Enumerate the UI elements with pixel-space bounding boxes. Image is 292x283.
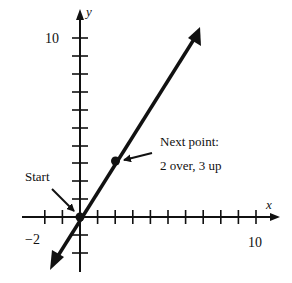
x-axis-label: x [265, 197, 272, 212]
next-point-pointer-arrow-icon [124, 153, 152, 160]
y-axis-arrow-icon [76, 9, 84, 20]
graph: y x 10 10 −2 Start Next point: 2 over, 3… [0, 0, 292, 283]
next-point [111, 157, 120, 166]
start-pointer-arrow-icon [52, 189, 74, 211]
x-tick-label-neg2: −2 [25, 232, 40, 247]
start-label: Start [25, 169, 50, 184]
line-down-arrow-icon [50, 250, 64, 270]
y-tick-label-10: 10 [45, 31, 59, 46]
x-axis-arrow-icon [270, 213, 280, 221]
y-axis-label: y [84, 4, 92, 19]
next-point-label-line2: 2 over, 3 up [160, 158, 222, 173]
x-axis [22, 210, 280, 224]
next-point-label-line1: Next point: [160, 134, 219, 149]
start-point [76, 213, 85, 222]
x-tick-label-10: 10 [248, 235, 262, 250]
